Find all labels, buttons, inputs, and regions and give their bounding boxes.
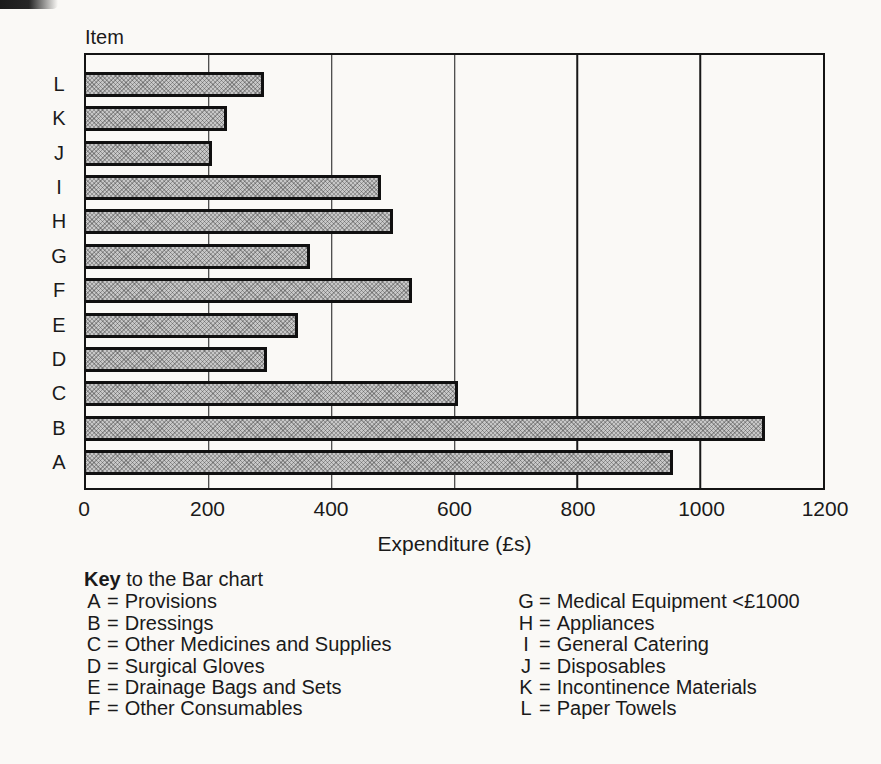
key-equals: = bbox=[539, 677, 551, 698]
bar-row-F bbox=[86, 278, 823, 303]
key-equals: = bbox=[539, 591, 551, 612]
key-equals: = bbox=[539, 698, 551, 719]
key-item-B: B=Dressings bbox=[84, 613, 392, 634]
category-label-C: C bbox=[44, 381, 74, 406]
x-tick-label-1000: 1000 bbox=[678, 497, 725, 521]
bar-L bbox=[86, 72, 264, 97]
key-item-I: I=General Catering bbox=[516, 634, 800, 655]
key-item-F: F=Other Consumables bbox=[84, 698, 392, 719]
x-tick-label-200: 200 bbox=[190, 497, 225, 521]
category-label-D: D bbox=[44, 347, 74, 372]
bar-I bbox=[86, 175, 381, 200]
x-tick-label-0: 0 bbox=[78, 497, 90, 521]
key-item-G: G=Medical Equipment <£1000 bbox=[516, 591, 800, 612]
scanned-bar-chart-page: Item LKJIHGFEDCBA 020040060080010001200 … bbox=[0, 0, 881, 764]
key-label-K: Incontinence Materials bbox=[557, 676, 757, 698]
key-equals: = bbox=[107, 634, 119, 655]
key-label-B: Dressings bbox=[125, 612, 214, 634]
bar-B bbox=[86, 416, 765, 441]
bar-row-G bbox=[86, 244, 823, 269]
key-label-G: Medical Equipment <£1000 bbox=[557, 590, 800, 612]
bars bbox=[86, 72, 823, 475]
bar-row-H bbox=[86, 209, 823, 234]
category-label-L: L bbox=[44, 72, 74, 97]
key-equals: = bbox=[107, 677, 119, 698]
category-label-I: I bbox=[44, 175, 74, 200]
bar-row-L bbox=[86, 72, 823, 97]
key-letter-C: C bbox=[84, 634, 104, 655]
bar-row-C bbox=[86, 381, 823, 406]
key-equals: = bbox=[539, 656, 551, 677]
key-equals: = bbox=[107, 613, 119, 634]
x-tick-label-800: 800 bbox=[560, 497, 595, 521]
category-label-F: F bbox=[44, 278, 74, 303]
bar-row-J bbox=[86, 141, 823, 166]
key-letter-G: G bbox=[516, 591, 536, 612]
x-tick-label-600: 600 bbox=[437, 497, 472, 521]
key-item-E: E=Drainage Bags and Sets bbox=[84, 677, 392, 698]
key-letter-J: J bbox=[516, 656, 536, 677]
bar-row-I bbox=[86, 175, 823, 200]
bar-E bbox=[86, 313, 298, 338]
bar-H bbox=[86, 209, 393, 234]
category-label-G: G bbox=[44, 244, 74, 269]
key-label-H: Appliances bbox=[557, 612, 655, 634]
key-item-H: H=Appliances bbox=[516, 613, 800, 634]
bar-row-D bbox=[86, 347, 823, 372]
category-label-H: H bbox=[44, 209, 74, 234]
plot-area: LKJIHGFEDCBA bbox=[84, 53, 825, 490]
bar-F bbox=[86, 278, 412, 303]
key-letter-K: K bbox=[516, 677, 536, 698]
x-axis-title: Expenditure (£s) bbox=[84, 532, 825, 556]
key-label-A: Provisions bbox=[125, 590, 217, 612]
bar-K bbox=[86, 106, 227, 131]
key-title-rest: to the Bar chart bbox=[126, 568, 263, 590]
bar-D bbox=[86, 347, 267, 372]
bar-G bbox=[86, 244, 310, 269]
key-label-F: Other Consumables bbox=[125, 697, 303, 719]
key-equals: = bbox=[539, 613, 551, 634]
key-title-bold: Key bbox=[84, 568, 121, 590]
key-item-D: D=Surgical Gloves bbox=[84, 656, 392, 677]
bar-J bbox=[86, 141, 212, 166]
bar-row-K bbox=[86, 106, 823, 131]
key-letter-B: B bbox=[84, 613, 104, 634]
category-label-K: K bbox=[44, 106, 74, 131]
key-letter-E: E bbox=[84, 677, 104, 698]
key-letter-L: L bbox=[516, 698, 536, 719]
key-equals: = bbox=[539, 634, 551, 655]
key-item-A: A=Provisions bbox=[84, 591, 392, 612]
bar-row-E bbox=[86, 313, 823, 338]
x-tick-labels: 020040060080010001200 bbox=[84, 497, 825, 523]
key-columns: A=ProvisionsB=DressingsC=Other Medicines… bbox=[84, 591, 392, 719]
category-label-E: E bbox=[44, 313, 74, 338]
key-letter-I: I bbox=[516, 634, 536, 655]
key-letter-F: F bbox=[84, 698, 104, 719]
category-label-J: J bbox=[44, 141, 74, 166]
bar-A bbox=[86, 450, 673, 475]
key-letter-A: A bbox=[84, 591, 104, 612]
x-tick-label-400: 400 bbox=[313, 497, 348, 521]
key-block: Key to the Bar chart A=ProvisionsB=Dress… bbox=[84, 569, 392, 720]
key-column-left: A=ProvisionsB=DressingsC=Other Medicines… bbox=[84, 591, 392, 719]
key-item-J: J=Disposables bbox=[516, 656, 800, 677]
key-letter-H: H bbox=[516, 613, 536, 634]
bar-C bbox=[86, 381, 458, 406]
key-letter-D: D bbox=[84, 656, 104, 677]
y-axis-header: Item bbox=[85, 26, 124, 49]
bar-row-A bbox=[86, 450, 823, 475]
bar-row-B bbox=[86, 416, 823, 441]
category-label-A: A bbox=[44, 450, 74, 475]
key-label-D: Surgical Gloves bbox=[125, 655, 265, 677]
key-title: Key to the Bar chart bbox=[84, 569, 392, 590]
key-label-L: Paper Towels bbox=[557, 697, 677, 719]
key-equals: = bbox=[107, 591, 119, 612]
key-item-K: K=Incontinence Materials bbox=[516, 677, 800, 698]
key-item-C: C=Other Medicines and Supplies bbox=[84, 634, 392, 655]
key-equals: = bbox=[107, 656, 119, 677]
scan-artifact bbox=[0, 0, 58, 9]
x-tick-label-1200: 1200 bbox=[802, 497, 849, 521]
key-label-I: General Catering bbox=[557, 633, 709, 655]
category-label-B: B bbox=[44, 416, 74, 441]
key-equals: = bbox=[107, 698, 119, 719]
